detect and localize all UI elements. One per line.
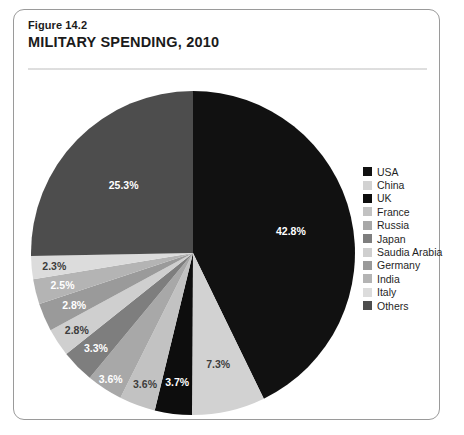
- figure-header: Figure 14.2 MILITARY SPENDING, 2010: [28, 18, 427, 52]
- legend-item: India: [363, 272, 441, 285]
- legend-item: Japan: [363, 232, 441, 245]
- legend-swatch-icon: [363, 274, 372, 283]
- legend-swatch-icon: [363, 194, 372, 203]
- legend-item: UK: [363, 192, 441, 205]
- pie-slice: [31, 91, 193, 256]
- chart-legend: USAChinaUKFranceRussiaJapanSaudia Arabia…: [363, 165, 441, 312]
- pie-chart-svg: [30, 72, 356, 416]
- legend-item-label: India: [377, 273, 400, 285]
- legend-item: Germany: [363, 259, 441, 272]
- legend-item-label: France: [377, 206, 410, 218]
- legend-swatch-icon: [363, 234, 372, 243]
- chart-plot-area: 42.8%7.3%3.7%3.6%3.6%3.3%2.8%2.8%2.5%2.3…: [14, 72, 441, 420]
- legend-swatch-icon: [363, 167, 372, 176]
- legend-swatch-icon: [363, 261, 372, 270]
- legend-swatch-icon: [363, 288, 372, 297]
- legend-item: Others: [363, 299, 441, 312]
- legend-item: France: [363, 205, 441, 218]
- pie-slice-group: [31, 91, 355, 415]
- legend-item: Russia: [363, 219, 441, 232]
- legend-swatch-icon: [363, 207, 372, 216]
- legend-item-label: Japan: [377, 233, 406, 245]
- legend-swatch-icon: [363, 221, 372, 230]
- pie-chart: 42.8%7.3%3.7%3.6%3.6%3.3%2.8%2.8%2.5%2.3…: [30, 72, 356, 416]
- legend-item: China: [363, 178, 441, 191]
- legend-item-label: Russia: [377, 219, 409, 231]
- legend-item-label: Saudia Arabia: [377, 246, 442, 258]
- legend-item-label: China: [377, 179, 404, 191]
- legend-swatch-icon: [363, 301, 372, 310]
- legend-item-label: Italy: [377, 286, 396, 298]
- legend-item-label: USA: [377, 166, 399, 178]
- figure-number: Figure 14.2: [28, 18, 427, 32]
- header-divider: [28, 68, 427, 70]
- legend-swatch-icon: [363, 248, 372, 257]
- legend-item-label: Others: [377, 300, 409, 312]
- legend-item: Italy: [363, 286, 441, 299]
- legend-item-label: Germany: [377, 259, 420, 271]
- figure-frame: Figure 14.2 MILITARY SPENDING, 2010 42.8…: [13, 9, 440, 420]
- legend-item: Saudia Arabia: [363, 245, 441, 258]
- legend-item: USA: [363, 165, 441, 178]
- legend-item-label: UK: [377, 192, 392, 204]
- page-title: MILITARY SPENDING, 2010: [28, 33, 427, 52]
- legend-swatch-icon: [363, 181, 372, 190]
